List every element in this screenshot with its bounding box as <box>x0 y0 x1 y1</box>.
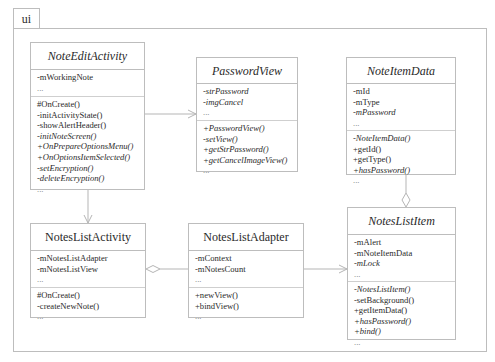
class-title: NoteItemData <box>347 58 455 84</box>
operation-row: -setEncryption() <box>37 163 144 174</box>
dependency-arrow-adapter-noteslistitem <box>304 265 347 273</box>
class-password-view[interactable]: PasswordView -strPassword-imgCancel... +… <box>196 57 298 172</box>
class-note-item-data[interactable]: NoteItemData -mId-mType-mPassword... -No… <box>346 57 456 175</box>
operation-row: +hasPassword() <box>353 165 455 176</box>
operation-row: +OnOptionsItemSelected() <box>37 152 144 163</box>
operation-row: +getType() <box>353 154 455 165</box>
attribute-row: -strPassword <box>203 86 297 97</box>
class-title: NoteEditActivity <box>31 43 144 70</box>
ellipsis: ... <box>203 165 297 176</box>
dependency-arrow-noteedit-passwordview <box>145 110 196 118</box>
attribute-row: -mNotesListAdapter <box>37 253 145 264</box>
class-notes-list-item[interactable]: NotesListItem -mAlert-mNoteItemData-mLoc… <box>347 207 456 340</box>
attributes-section: -mWorkingNote... <box>31 70 144 97</box>
operations-section: #OnCreate()-initActivityState()-showAler… <box>31 97 144 194</box>
operation-row: -setView() <box>203 134 297 145</box>
operation-row: +newView() <box>195 290 303 301</box>
attribute-row: -mId <box>353 86 455 97</box>
operation-row: +PasswordView() <box>203 123 297 134</box>
operation-row: +getCancelImageView() <box>203 155 297 166</box>
operation-row: -initActivityState() <box>37 110 144 121</box>
operation-row: -deleteEncryption() <box>37 173 144 184</box>
operation-row: +hasPassword() <box>354 316 455 327</box>
attributes-section: -strPassword-imgCancel... <box>197 84 297 121</box>
class-notes-list-adapter[interactable]: NotesListAdapter -mContext-mNotesCount..… <box>188 223 304 318</box>
operations-section: #OnCreate()-createNewNote()... <box>31 288 145 322</box>
ellipsis: ... <box>203 107 297 118</box>
ellipsis: ... <box>195 311 303 322</box>
operation-row: +getItemData() <box>354 305 455 316</box>
ellipsis: ... <box>353 118 455 129</box>
operation-row: #OnCreate() <box>37 290 145 301</box>
attribute-row: -mType <box>353 97 455 108</box>
class-title: NotesListActivity <box>31 224 145 251</box>
operation-row: +bind() <box>354 326 455 337</box>
operation-row: +bindView() <box>195 301 303 312</box>
attribute-row: -mWorkingNote <box>37 72 144 83</box>
attribute-row: -imgCancel <box>203 97 297 108</box>
class-title: NotesListItem <box>348 208 455 235</box>
attribute-row: -mNotesListView <box>37 264 145 275</box>
operation-row: +getStrPassword() <box>203 144 297 155</box>
attributes-section: -mId-mType-mPassword... <box>347 84 455 131</box>
attribute-row: -mNoteItemData <box>354 248 455 259</box>
ellipsis: ... <box>37 184 144 195</box>
attribute-row: -mAlert <box>354 237 455 248</box>
dependency-arrow-noteedit-noteslistactivity <box>84 190 92 223</box>
operation-row: #OnCreate() <box>37 99 144 110</box>
class-title: PasswordView <box>197 58 297 84</box>
attribute-row: -mPassword <box>353 107 455 118</box>
attribute-row: -mContext <box>195 253 303 264</box>
operation-row: -setBackground() <box>354 295 455 306</box>
ellipsis: ... <box>195 274 303 285</box>
operation-row: -createNewNote() <box>37 301 145 312</box>
attribute-row: -mLock <box>354 258 455 269</box>
operation-row: -NoteItemData() <box>353 133 455 144</box>
operations-section: -NoteItemData()+getId()+getType()+hasPas… <box>347 131 455 186</box>
attributes-section: -mAlert-mNoteItemData-mLock... <box>348 235 455 282</box>
operations-section: +newView()+bindView()... <box>189 288 303 322</box>
ellipsis: ... <box>37 311 145 322</box>
attributes-section: -mNotesListAdapter-mNotesListView... <box>31 251 145 288</box>
operation-row: +OnPrepareOptionsMenu() <box>37 141 144 152</box>
operations-section: +PasswordView()-setView()+getStrPassword… <box>197 121 297 176</box>
ellipsis: ... <box>353 175 455 186</box>
operation-row: -initNoteScreen() <box>37 131 144 142</box>
class-notes-list-activity[interactable]: NotesListActivity -mNotesListAdapter-mNo… <box>30 223 146 318</box>
ellipsis: ... <box>354 269 455 280</box>
ellipsis: ... <box>37 274 145 285</box>
aggregation-noteslistactivity-adapter <box>146 266 188 273</box>
operation-row: -showAlertHeader() <box>37 120 144 131</box>
attributes-section: -mContext-mNotesCount... <box>189 251 303 288</box>
ellipsis: ... <box>354 337 455 348</box>
operation-row: +getId() <box>353 144 455 155</box>
attribute-row: -mNotesCount <box>195 264 303 275</box>
operation-row: -NotesListItem() <box>354 284 455 295</box>
ellipsis: ... <box>37 83 144 94</box>
class-note-edit-activity[interactable]: NoteEditActivity -mWorkingNote... #OnCre… <box>30 42 145 190</box>
operations-section: -NotesListItem()-setBackground()+getItem… <box>348 282 455 348</box>
class-title: NotesListAdapter <box>189 224 303 251</box>
